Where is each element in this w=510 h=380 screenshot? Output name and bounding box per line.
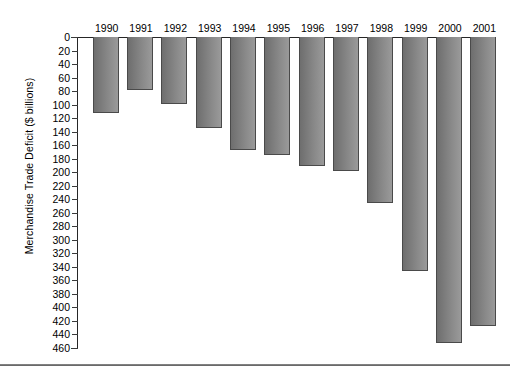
y-axis-tick bbox=[72, 280, 78, 281]
y-axis-tick-label: 160 bbox=[52, 140, 70, 151]
x-axis-tick-label: 1993 bbox=[198, 23, 221, 34]
x-axis-tick-label: 1999 bbox=[404, 23, 427, 34]
bar: 1999 bbox=[402, 37, 428, 271]
bar: 1994 bbox=[230, 37, 256, 150]
y-axis-tick bbox=[72, 294, 78, 295]
y-axis-tick bbox=[72, 51, 78, 52]
x-axis-tick-label: 1998 bbox=[370, 23, 393, 34]
bar: 2000 bbox=[436, 37, 462, 343]
y-axis-tick bbox=[71, 37, 78, 38]
y-axis-tick bbox=[72, 307, 78, 308]
bar: 1998 bbox=[367, 37, 393, 203]
x-axis-tick-label: 1994 bbox=[232, 23, 255, 34]
plot-area: 0204060801001201401601802002202402602803… bbox=[77, 37, 489, 348]
bar: 1990 bbox=[93, 37, 119, 113]
y-axis-tick-label: 180 bbox=[52, 153, 70, 164]
y-axis-tick bbox=[72, 132, 78, 133]
y-axis-tick-label: 40 bbox=[58, 59, 70, 70]
y-axis-tick bbox=[72, 145, 78, 146]
x-axis-tick-label: 2001 bbox=[473, 23, 496, 34]
y-axis-tick bbox=[72, 321, 78, 322]
y-axis-tick-label: 440 bbox=[52, 329, 70, 340]
y-axis-tick bbox=[72, 267, 78, 268]
y-axis-tick-label: 0 bbox=[64, 32, 70, 43]
y-axis-tick bbox=[72, 240, 78, 241]
x-axis-tick-label: 1996 bbox=[301, 23, 324, 34]
x-axis-tick-label: 2000 bbox=[438, 23, 461, 34]
y-axis-tick bbox=[72, 253, 78, 254]
x-axis-tick-label: 1991 bbox=[129, 23, 152, 34]
y-axis-tick bbox=[72, 118, 78, 119]
y-axis-tick-label: 260 bbox=[52, 208, 70, 219]
y-axis-tick-label: 360 bbox=[52, 275, 70, 286]
y-axis-tick-label: 240 bbox=[52, 194, 70, 205]
y-axis-line bbox=[77, 37, 78, 348]
y-axis-title: Merchandise Trade Deficit ($ billions) bbox=[23, 41, 35, 291]
y-axis-tick-label: 60 bbox=[58, 72, 70, 83]
y-axis-tick bbox=[72, 226, 78, 227]
bottom-divider bbox=[0, 364, 510, 366]
chart-figure: Merchandise Trade Deficit ($ billions) 0… bbox=[0, 0, 510, 380]
y-axis-tick-label: 280 bbox=[52, 221, 70, 232]
y-axis-tick bbox=[72, 172, 78, 173]
y-axis-tick-label: 380 bbox=[52, 289, 70, 300]
y-axis-tick-label: 220 bbox=[52, 180, 70, 191]
y-axis-tick bbox=[72, 186, 78, 187]
y-axis-tick bbox=[72, 334, 78, 335]
y-axis-tick bbox=[71, 348, 78, 349]
x-axis-tick-label: 1995 bbox=[267, 23, 290, 34]
y-axis-tick bbox=[72, 159, 78, 160]
x-axis-tick-label: 1997 bbox=[335, 23, 358, 34]
y-axis-tick-label: 120 bbox=[52, 113, 70, 124]
y-axis-tick bbox=[72, 64, 78, 65]
bar: 1996 bbox=[299, 37, 325, 166]
bar: 2001 bbox=[470, 37, 496, 326]
bar: 1995 bbox=[264, 37, 290, 155]
y-axis-tick bbox=[72, 199, 78, 200]
y-axis-tick-label: 200 bbox=[52, 167, 70, 178]
y-axis-tick bbox=[72, 78, 78, 79]
y-axis-tick bbox=[72, 91, 78, 92]
y-axis-tick-label: 420 bbox=[52, 316, 70, 327]
x-axis-tick-label: 1992 bbox=[164, 23, 187, 34]
y-axis-tick bbox=[72, 213, 78, 214]
bar: 1991 bbox=[127, 37, 153, 90]
x-axis-tick-label: 1990 bbox=[95, 23, 118, 34]
y-axis-tick bbox=[72, 105, 78, 106]
y-axis-tick-label: 20 bbox=[58, 45, 70, 56]
y-axis-tick-label: 400 bbox=[52, 302, 70, 313]
bar: 1992 bbox=[161, 37, 187, 104]
y-axis-tick-label: 340 bbox=[52, 262, 70, 273]
y-axis-tick-label: 140 bbox=[52, 126, 70, 137]
y-axis-tick-label: 320 bbox=[52, 248, 70, 259]
y-axis-tick-label: 100 bbox=[52, 99, 70, 110]
bar: 1993 bbox=[196, 37, 222, 128]
y-axis-tick-label: 300 bbox=[52, 235, 70, 246]
bar: 1997 bbox=[333, 37, 359, 171]
y-axis-tick-label: 460 bbox=[52, 343, 70, 354]
y-axis-tick-label: 80 bbox=[58, 86, 70, 97]
